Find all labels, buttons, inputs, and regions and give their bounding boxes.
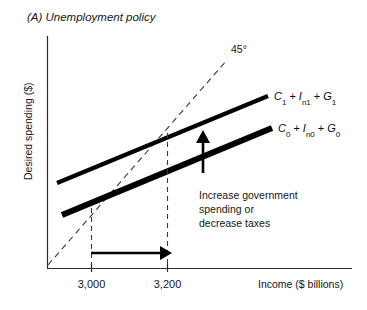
reference-line-label: 45° [231,43,247,55]
x-tick-label-3000: 3,000 [78,278,106,290]
curve-after-plus2: + [314,90,320,102]
unemployment-policy-chart: (A) Unemployment policy Desired spending… [0,0,367,310]
curve-before-c-sub: 0 [286,130,291,139]
policy-annotation-line-2: spending or [199,203,254,215]
curve-before-c: C [278,122,286,134]
x-axis-title: Income ($ billions) [258,278,343,290]
curve-after-c-sub: 1 [282,98,287,107]
x-tick-label-3200: 3,200 [154,278,182,290]
policy-annotation-line-3: decrease taxes [199,217,270,229]
curve-before-g-sub: 0 [336,130,341,139]
curve-after-g-sub: 1 [332,98,337,107]
curve-after-plus1: + [289,90,295,102]
curve-after-i-sub: n1 [302,98,311,107]
policy-annotation-line-1: Increase government [199,189,298,201]
curve-after-c: C [274,90,282,102]
curve-before-plus1: + [293,122,299,134]
curve-before-plus2: + [318,122,324,134]
curve-before-i-sub: n0 [306,130,315,139]
page-title: (A) Unemployment policy [27,11,157,23]
y-axis-title: Desired spending ($) [22,83,34,180]
chart-background [0,0,367,310]
